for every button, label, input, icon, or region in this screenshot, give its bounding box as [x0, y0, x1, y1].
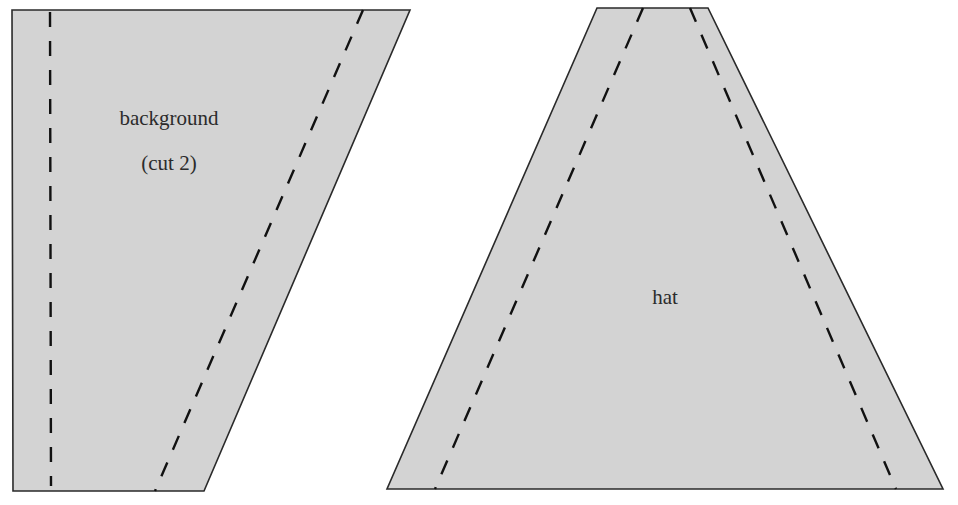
hat-piece: hat	[387, 8, 943, 489]
hat-label: hat	[652, 285, 678, 309]
pattern-diagram: background (cut 2) hat	[0, 0, 958, 505]
hat-outline	[387, 8, 943, 489]
background-outline	[12, 10, 410, 491]
background-cut-label: (cut 2)	[141, 151, 196, 175]
background-label: background	[119, 106, 219, 130]
background-piece: background (cut 2)	[12, 10, 410, 491]
